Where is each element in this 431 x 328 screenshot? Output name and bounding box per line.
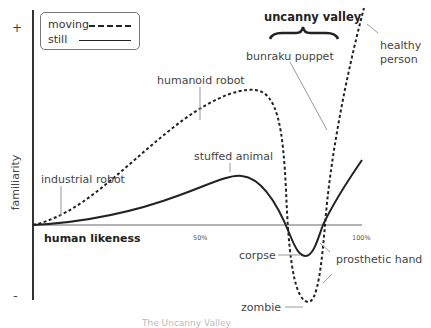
- label-industrial-robot: industrial robot: [41, 174, 125, 185]
- label-zombie: zombie: [241, 302, 281, 313]
- label-corpse: corpse: [239, 250, 276, 261]
- bunraku-puppet-leader: [290, 62, 327, 130]
- label-humanoid-robot: humanoid robot: [157, 75, 245, 86]
- legend: moving still: [40, 12, 140, 50]
- legend-moving-swatch: [89, 25, 131, 27]
- y-axis-label: familiarity: [9, 155, 22, 211]
- uncanny-valley-brace: [270, 27, 338, 39]
- legend-still-swatch: [79, 40, 131, 41]
- prosthetic-hand-leader-1: [320, 243, 330, 252]
- label-person: person: [380, 54, 418, 65]
- prosthetic-hand-leader-2: [323, 274, 332, 283]
- label-bunraku-puppet: bunraku puppet: [246, 51, 334, 62]
- y-minus-tick: -: [13, 289, 18, 302]
- x-tick-100: 100%: [352, 235, 371, 242]
- y-plus-tick: +: [12, 22, 22, 34]
- figure-caption: The Uncanny Valley: [142, 318, 231, 328]
- legend-still-label: still: [48, 34, 67, 45]
- x-axis-label: human likeness: [44, 233, 141, 244]
- legend-moving-label: moving: [48, 19, 89, 30]
- label-healthy: healthy: [380, 40, 421, 51]
- uncanny-valley-title: uncanny valley: [264, 12, 361, 24]
- healthy-person-leader: [367, 24, 378, 33]
- label-stuffed-animal: stuffed animal: [194, 151, 273, 162]
- x-tick-50: 50%: [193, 235, 207, 242]
- label-prosthetic-hand: prosthetic hand: [336, 254, 422, 265]
